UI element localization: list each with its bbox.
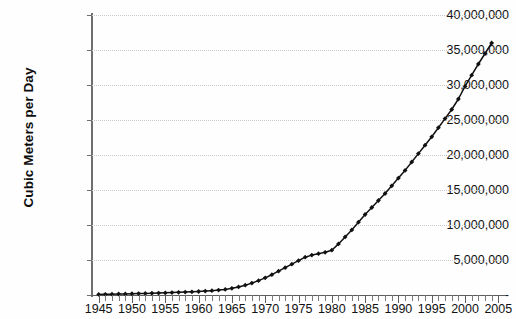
data-point (256, 278, 261, 283)
data-point (316, 251, 321, 256)
x-tick-mark (299, 295, 300, 303)
x-tick-mark (432, 295, 433, 303)
x-tick-mark (345, 295, 346, 301)
x-tick-mark (332, 295, 333, 303)
x-tick-mark (485, 295, 486, 301)
data-point (183, 290, 188, 295)
x-tick-mark (418, 295, 419, 301)
data-point (309, 253, 314, 258)
data-point (203, 289, 208, 294)
chart-container: Cubic Meters per Day 40,000,00035,000,00… (0, 0, 516, 319)
x-tick-mark (139, 295, 140, 301)
x-tick-mark (259, 295, 260, 301)
x-tick-mark (305, 295, 306, 301)
data-series (92, 15, 505, 295)
x-tick-mark (398, 295, 399, 303)
data-point (229, 286, 234, 291)
x-tick-mark (125, 295, 126, 301)
x-tick-mark (165, 295, 166, 303)
data-point (243, 283, 248, 288)
x-tick-mark (279, 295, 280, 301)
x-tick-mark (318, 295, 319, 301)
x-tick-mark (478, 295, 479, 301)
data-point (210, 288, 215, 293)
x-tick-mark (219, 295, 220, 301)
x-tick-mark (239, 295, 240, 301)
x-tick-mark (99, 295, 100, 303)
x-tick-mark (312, 295, 313, 301)
x-tick-mark (112, 295, 113, 301)
data-point (249, 281, 254, 286)
x-tick-mark (152, 295, 153, 301)
x-tick-mark (212, 295, 213, 301)
x-tick-mark (179, 295, 180, 301)
x-tick-mark (159, 295, 160, 301)
x-tick-mark (412, 295, 413, 301)
x-tick-mark (245, 295, 246, 301)
x-tick-mark (252, 295, 253, 301)
x-tick-mark (119, 295, 120, 301)
x-tick-mark (172, 295, 173, 301)
x-tick-mark (352, 295, 353, 301)
x-tick-mark (458, 295, 459, 301)
data-point (190, 289, 195, 294)
x-tick-mark (192, 295, 193, 301)
x-tick-mark (272, 295, 273, 301)
x-tick-mark (338, 295, 339, 301)
x-tick-mark (285, 295, 286, 301)
data-point (223, 287, 228, 292)
data-point (196, 289, 201, 294)
data-point (236, 285, 241, 290)
x-tick-mark (372, 295, 373, 301)
x-tick-label: 2005 (475, 303, 516, 316)
x-tick-mark (438, 295, 439, 301)
x-tick-mark (325, 295, 326, 301)
data-point (263, 275, 268, 280)
x-tick-mark (465, 295, 466, 303)
x-tick-mark (472, 295, 473, 301)
y-axis-title: Cubic Meters per Day (21, 53, 36, 223)
x-tick-mark (492, 295, 493, 301)
x-tick-mark (425, 295, 426, 301)
x-tick-mark (105, 295, 106, 301)
x-tick-mark (232, 295, 233, 303)
x-tick-mark (132, 295, 133, 303)
x-tick-mark (292, 295, 293, 301)
data-point (216, 288, 221, 293)
x-tick-mark (145, 295, 146, 301)
x-tick-mark (225, 295, 226, 301)
x-tick-mark (452, 295, 453, 301)
x-tick-mark (405, 295, 406, 301)
x-tick-mark (358, 295, 359, 301)
data-point (323, 250, 328, 255)
x-tick-mark (392, 295, 393, 301)
x-tick-mark (199, 295, 200, 303)
series-line (99, 43, 492, 294)
x-tick-mark (365, 295, 366, 303)
y-tick-mark (87, 295, 92, 296)
x-tick-mark (498, 295, 499, 303)
x-tick-mark (205, 295, 206, 301)
x-tick-mark (265, 295, 266, 303)
series-markers (96, 41, 494, 297)
plot-area (92, 15, 505, 295)
x-tick-mark (445, 295, 446, 301)
x-tick-mark (385, 295, 386, 301)
x-tick-mark (185, 295, 186, 301)
x-tick-mark (378, 295, 379, 301)
